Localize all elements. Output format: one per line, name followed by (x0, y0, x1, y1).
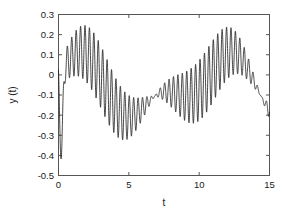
x-axis-title: t (163, 197, 166, 208)
data-series-line (59, 25, 270, 158)
figure-container: -0.5-0.4-0.3-0.2-0.100.10.20.3 051015 t … (0, 0, 288, 214)
y-tick-label: -0.3 (38, 130, 54, 141)
y-tick-label: -0.1 (38, 89, 54, 100)
y-tick-label: -0.4 (38, 150, 54, 161)
chart-canvas: -0.5-0.4-0.3-0.2-0.100.10.20.3 051015 t … (0, 0, 288, 214)
x-axis-tick-labels: 051015 (56, 179, 275, 190)
x-tick-label: 10 (194, 179, 205, 190)
x-tick-label: 0 (56, 179, 61, 190)
y-tick-label: 0.1 (41, 49, 54, 60)
y-tick-label: 0.2 (41, 29, 54, 40)
y-tick-label: 0 (49, 69, 54, 80)
y-tick-label: -0.2 (38, 110, 54, 121)
y-tick-label: -0.5 (38, 170, 54, 181)
x-tick-label: 5 (126, 179, 131, 190)
y-axis-title: y (t) (7, 86, 18, 103)
y-axis-tick-labels: -0.5-0.4-0.3-0.2-0.100.10.20.3 (38, 9, 54, 181)
x-tick-label: 15 (264, 179, 275, 190)
y-tick-label: 0.3 (41, 9, 54, 20)
